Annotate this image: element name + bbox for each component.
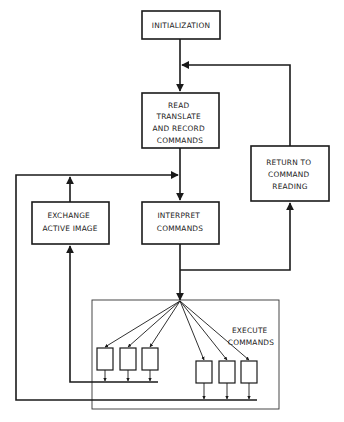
execute-unit (120, 348, 136, 370)
execute-units-right-group (196, 361, 257, 399)
svg-text:RETURN TO COMMAND: RETURN TO COMMAND READING (266, 158, 313, 191)
execute-unit (219, 361, 235, 383)
flowchart-diagram: EXECUTE COMMANDS (0, 0, 344, 422)
execute-unit (241, 361, 257, 383)
svg-text:INITIALIZATION: INITIALIZATION (152, 21, 210, 30)
fan-line (180, 301, 227, 360)
fan-line (180, 301, 204, 360)
execute-label: EXECUTE COMMANDS (228, 326, 274, 347)
execute-unit (142, 348, 158, 370)
node-interpret-commands: INTERPRET COMMANDS (142, 202, 219, 244)
node-exchange-active-image: EXCHANGE ACTIVE IMAGE (32, 202, 109, 244)
execute-units-left-group (97, 348, 158, 381)
execute-unit (196, 361, 212, 383)
fan-line (105, 301, 180, 347)
node-read-translate-record: READ TRANSLATE AND RECORD COMMANDS (142, 93, 219, 148)
node-initialization: INITIALIZATION (142, 11, 220, 39)
execute-unit (97, 348, 113, 370)
node-return-to-command-reading: RETURN TO COMMAND READING (251, 146, 329, 201)
